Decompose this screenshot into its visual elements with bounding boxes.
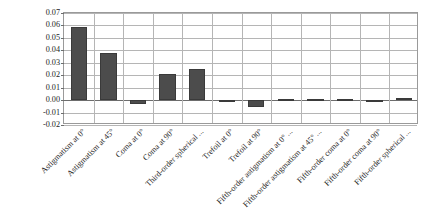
y-tick-label: 0.01 [22, 84, 60, 92]
x-gridline [153, 13, 154, 123]
x-gridline [271, 13, 272, 123]
y-tick-mark [61, 75, 64, 76]
x-gridline [182, 13, 183, 123]
x-gridline [212, 13, 213, 123]
y-tick-label: 0.04 [22, 46, 60, 54]
y-tick-label: -0.01 [22, 109, 60, 117]
y-tick-label: 0.07 [22, 9, 60, 17]
y-tick-mark [61, 63, 64, 64]
y-tick-mark [61, 88, 64, 89]
y-tick-label: 0.02 [22, 71, 60, 79]
y-tick-label: 0.06 [22, 21, 60, 29]
y-tick-label: -0.02 [22, 121, 60, 129]
x-tick-label-text: Third-order spherical ... [144, 127, 206, 189]
y-gridline [64, 75, 417, 76]
y-tick-label: 0.05 [22, 34, 60, 42]
x-gridline [389, 13, 390, 123]
y-tick-label: 0.03 [22, 59, 60, 67]
y-gridline [64, 50, 417, 51]
y-tick-mark [61, 25, 64, 26]
x-gridline [330, 13, 331, 123]
x-gridline [123, 13, 124, 123]
y-tick-mark [61, 38, 64, 39]
y-tick-mark [61, 50, 64, 51]
y-tick-mark [61, 100, 64, 101]
x-tick-label-text: Fifth-order coma at 0° [295, 127, 353, 185]
y-tick-mark [61, 13, 64, 14]
bar [189, 69, 205, 100]
x-gridline [360, 13, 361, 123]
chart-figure: WFE (rms waves) 0.070.060.050.040.030.02… [0, 0, 434, 212]
plot-area: 0.070.060.050.040.030.020.010.00-0.01-0.… [63, 12, 418, 124]
x-gridline [94, 13, 95, 123]
bar [71, 27, 87, 100]
bar [159, 74, 175, 100]
y-tick-mark [61, 113, 64, 114]
y-gridline [64, 38, 417, 39]
y-gridline [64, 13, 417, 14]
x-tick-label-text: Fifth-order spherical ... [353, 127, 413, 187]
y-tick-mark [61, 125, 64, 126]
x-gridline [301, 13, 302, 123]
y-gridline [64, 25, 417, 26]
x-gridline [242, 13, 243, 123]
y-tick-label: 0.00 [22, 96, 60, 104]
